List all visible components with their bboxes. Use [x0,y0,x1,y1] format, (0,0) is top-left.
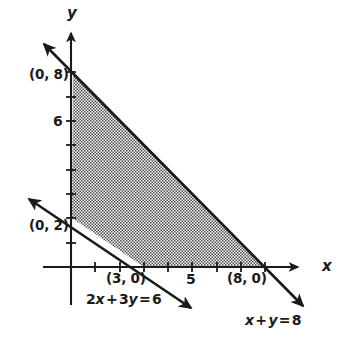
eq1-equals: = [139,291,151,307]
equation-label-2x-3y-6: 2x+3y=6 [86,292,161,306]
coordinate-plot [0,0,347,345]
x-axis-label: x [322,259,331,274]
figure-container: y x (0, 8) (0, 2) (3, 0) (8, 0) 6 5 2x+3… [0,0,347,345]
point-label-0-8: (0, 8) [29,68,69,82]
eq1-coeff-a: 2 [86,291,96,307]
point-label-3-0: (3, 0) [106,272,146,286]
point-label-0-2: (0, 2) [29,219,69,233]
y-tick-label-6: 6 [53,114,63,128]
eq1-plus: + [106,291,118,307]
eq2-var-y: y [268,312,277,328]
eq1-var-x: x [96,291,105,307]
eq2-plus: + [255,312,267,328]
eq1-rhs: 6 [152,291,162,307]
point-label-8-0: (8, 0) [227,272,267,286]
eq2-equals: = [279,312,291,328]
y-axis-label: y [67,6,77,21]
eq2-rhs: 8 [292,312,302,328]
equation-label-x-y-8: x+y=8 [245,313,301,327]
eq2-var-x: x [245,312,254,328]
x-tick-label-5: 5 [186,272,196,286]
eq1-var-y: y [128,291,137,307]
